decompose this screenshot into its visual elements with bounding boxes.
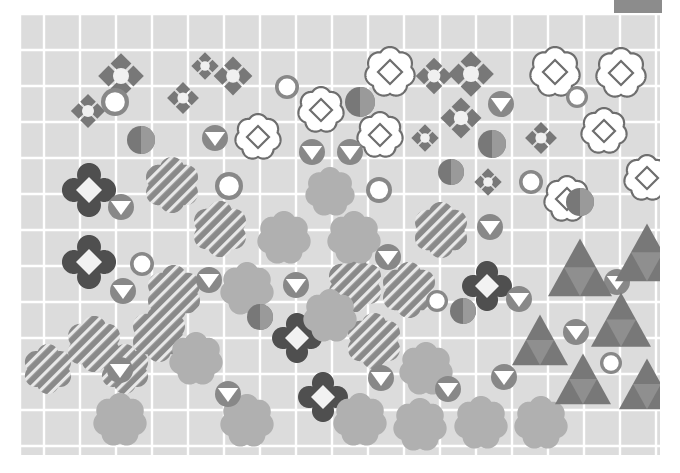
marker-circle-triangle [337, 139, 363, 165]
marker-flower-white-diamond [581, 108, 626, 152]
marker-flower-hatched [146, 157, 198, 213]
marker-layer [25, 47, 660, 451]
marker-circle-white-center [275, 75, 299, 99]
marker-circle-triangle [108, 194, 134, 220]
marker-circle-white-center [566, 86, 588, 108]
marker-circle-triangle [215, 381, 241, 407]
marker-diamond-cluster [448, 51, 494, 97]
scatter-plot-canvas [20, 14, 660, 455]
marker-circle-triangle [368, 365, 394, 391]
scatter-plot-area[interactable] [20, 14, 660, 455]
marker-circle-half [438, 159, 464, 185]
marker-circle-triangle [563, 319, 589, 345]
marker-circle-triangle [202, 125, 228, 151]
marker-circle-triangle [283, 272, 309, 298]
marker-circle-half [247, 304, 273, 330]
marker-diamond-cluster [474, 168, 501, 195]
marker-flower-hatched [415, 202, 467, 258]
marker-circle-triangle [299, 139, 325, 165]
marker-circle-half [566, 188, 594, 216]
marker-flower-white-diamond [365, 47, 414, 96]
marker-circle-triangle [375, 244, 401, 270]
legend-color-swatch [614, 0, 662, 13]
marker-flower-light-solid [333, 393, 386, 446]
marker-circle-triangle [110, 278, 136, 304]
marker-flower-white-diamond [235, 114, 280, 158]
marker-diamond-cluster [525, 122, 557, 154]
marker-circle-triangle [435, 376, 461, 402]
marker-flower-dark-diamond [62, 163, 116, 217]
marker-circle-white-center [130, 252, 154, 276]
marker-flower-white-diamond [298, 87, 343, 131]
marker-flower-light-solid [327, 211, 380, 264]
marker-triangle-nested [591, 293, 651, 347]
marker-diamond-cluster [416, 58, 452, 94]
marker-circle-triangle [107, 357, 133, 383]
marker-circle-white-center [366, 177, 392, 203]
marker-flower-light-solid [305, 167, 354, 216]
marker-circle-white-center [426, 290, 448, 312]
marker-diamond-cluster [411, 124, 438, 151]
marker-flower-light-solid [169, 332, 222, 385]
marker-circle-triangle [477, 214, 503, 240]
marker-flower-light-solid [454, 396, 507, 449]
marker-circle-white-center [215, 172, 243, 200]
marker-triangle-nested [512, 315, 568, 366]
marker-circle-white-center [600, 352, 622, 374]
marker-circle-white-center [101, 88, 129, 116]
marker-circle-white-center [519, 170, 543, 194]
marker-flower-light-solid [93, 393, 146, 446]
figure-root [0, 0, 680, 473]
marker-flower-hatched [25, 344, 71, 394]
marker-circle-half [478, 130, 506, 158]
marker-circle-triangle [488, 91, 514, 117]
marker-triangle-nested [548, 238, 612, 296]
marker-circle-half [345, 87, 375, 117]
marker-flower-light-solid [393, 398, 446, 451]
marker-triangle-nested [615, 223, 660, 281]
marker-flower-hatched [383, 262, 435, 318]
marker-flower-white-diamond [357, 112, 402, 156]
marker-flower-hatched [194, 201, 246, 257]
marker-circle-triangle [491, 364, 517, 390]
marker-flower-light-solid [257, 211, 310, 264]
marker-circle-triangle [196, 267, 222, 293]
marker-flower-dark-diamond [62, 235, 116, 289]
marker-circle-half [450, 298, 476, 324]
marker-flower-white-diamond [596, 48, 645, 97]
marker-triangle-nested [619, 359, 660, 410]
marker-circle-half [127, 126, 155, 154]
marker-diamond-cluster [214, 57, 253, 96]
marker-circle-triangle [506, 286, 532, 312]
